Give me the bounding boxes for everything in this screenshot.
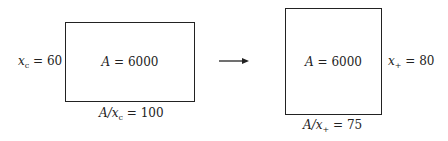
right-side-label: x+ = 80 <box>388 54 434 70</box>
right-bottom-label: A/x+ = 75 <box>303 118 362 134</box>
left-bottom-label: A/xc = 100 <box>99 106 164 122</box>
right-arrow-icon <box>218 56 252 66</box>
right-rectangle: A = 6000 <box>285 8 382 115</box>
left-area-label: A = 6000 <box>102 55 159 69</box>
left-rectangle: A = 6000 <box>65 22 195 102</box>
left-side-label: xc = 60 <box>18 54 62 70</box>
right-area-label: A = 6000 <box>305 55 362 69</box>
